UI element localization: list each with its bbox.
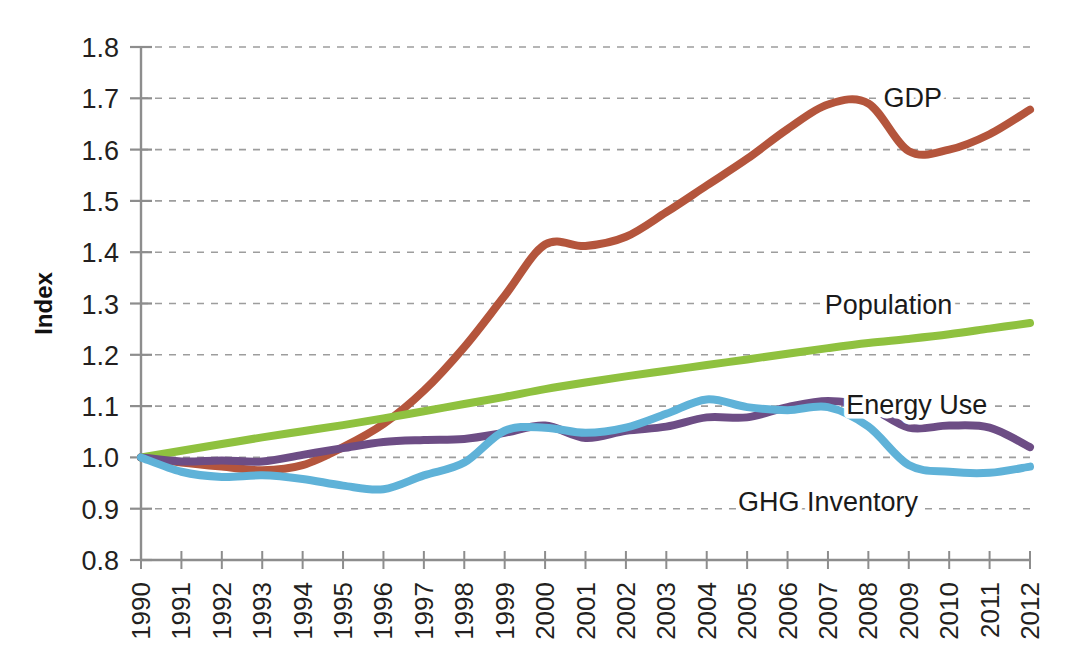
y-axis-title-text: Index [30, 272, 57, 335]
y-tick-label-1.7: 1.7 [81, 84, 119, 114]
y-tick-label-1.4: 1.4 [81, 238, 119, 268]
x-tick-label-1996: 1996 [368, 582, 398, 640]
x-tick-label-1994: 1994 [288, 582, 318, 640]
x-tick-label-2011: 2011 [975, 582, 1005, 638]
y-tick-label-1.1: 1.1 [81, 392, 119, 422]
y-tick-label-1.0: 1.0 [81, 443, 119, 473]
x-tick-label-2006: 2006 [773, 582, 803, 640]
x-tick-label-1993: 1993 [247, 582, 277, 640]
y-tick-label-0.9: 0.9 [81, 495, 119, 525]
x-tick-label-2007: 2007 [813, 582, 843, 640]
y-tick-label-1.8: 1.8 [81, 33, 119, 63]
x-tick-label-1992: 1992 [207, 582, 237, 640]
series-label-population: Population [825, 290, 953, 320]
series-label-energy-use: Energy Use [846, 390, 987, 420]
x-tick-label-1997: 1997 [409, 582, 439, 640]
y-tick-label-1.5: 1.5 [81, 187, 119, 217]
x-tick-label-2012: 2012 [1015, 582, 1045, 640]
y-tick-label-0.8: 0.8 [81, 546, 119, 576]
x-tick-label-2008: 2008 [853, 582, 883, 640]
x-tick-label-2004: 2004 [692, 582, 722, 640]
x-tick-label-2001: 2001 [571, 582, 601, 640]
x-tick-label-2010: 2010 [934, 582, 964, 640]
x-tick-label-2009: 2009 [894, 582, 924, 640]
line-chart: 0.80.91.01.11.21.31.41.51.61.71.8 199019… [0, 0, 1084, 654]
chart-container: 0.80.91.01.11.21.31.41.51.61.71.8 199019… [0, 0, 1084, 654]
series-label-gdp: GDP [884, 83, 943, 113]
x-tick-label-1995: 1995 [328, 582, 358, 640]
x-tick-label-2003: 2003 [651, 582, 681, 640]
x-tick-label-2005: 2005 [732, 582, 762, 640]
x-tick-label-1999: 1999 [490, 582, 520, 640]
x-tick-label-1998: 1998 [449, 582, 479, 640]
y-tick-label-1.3: 1.3 [81, 290, 119, 320]
y-tick-label-1.6: 1.6 [81, 136, 119, 166]
x-axis-ticks: 1990199119921993199419951996199719981999… [126, 551, 1045, 640]
y-tick-label-1.2: 1.2 [81, 341, 119, 371]
x-tick-label-1990: 1990 [126, 582, 156, 640]
y-axis-title: Index [30, 272, 57, 335]
x-tick-label-2000: 2000 [530, 582, 560, 640]
x-tick-label-2002: 2002 [611, 582, 641, 640]
x-tick-label-1991: 1991 [166, 582, 196, 640]
series-label-ghg-inventory: GHG Inventory [738, 487, 919, 517]
